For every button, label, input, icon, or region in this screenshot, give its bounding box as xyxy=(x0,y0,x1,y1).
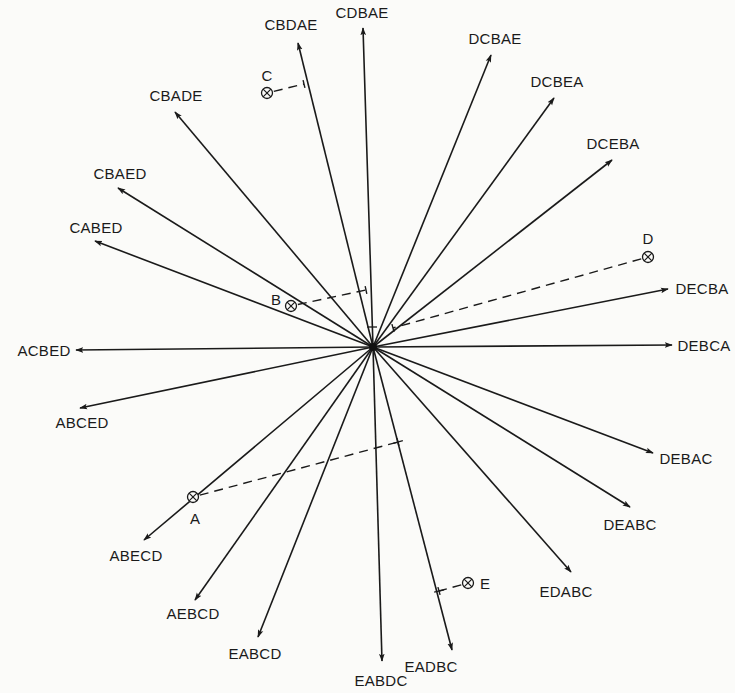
ray-arrow-acbed xyxy=(76,347,373,350)
ray-arrow-cabed xyxy=(95,241,373,347)
point-label: E xyxy=(480,575,490,592)
point-label: D xyxy=(643,230,654,247)
preference-ray-diagram: ABCDE CDBAECBDAEDCBAEDCBEADCEBACBADECBAE… xyxy=(0,0,735,693)
ray-arrow-debca xyxy=(373,345,672,347)
ray-arrow-eabdc xyxy=(373,347,382,661)
ray-arrow-deabc xyxy=(373,347,630,507)
point-marker-c xyxy=(262,88,273,99)
ray-arrow-dceba xyxy=(373,160,612,347)
ray-label: ABCED xyxy=(55,414,108,431)
point-label: B xyxy=(271,291,281,308)
ray-label: AEBCD xyxy=(166,605,219,622)
ray-label: ACBED xyxy=(17,342,70,359)
ray-arrow-decba xyxy=(373,289,668,347)
projection-foot-tick xyxy=(365,286,367,294)
ray-arrow-abced xyxy=(80,347,373,408)
ray-arrow-debac xyxy=(373,347,653,453)
ray-label: DECBA xyxy=(675,280,728,297)
ray-label: EADBC xyxy=(404,658,457,675)
ray-arrow-dcbea xyxy=(373,98,554,347)
ray-label: DEABC xyxy=(603,516,656,533)
projection-foot-tick xyxy=(303,80,305,88)
ray-label: CBADE xyxy=(149,87,202,104)
point-markers: ABCDE xyxy=(188,67,654,592)
ray-label: DCEBA xyxy=(586,135,639,152)
projection-line-c xyxy=(274,84,304,91)
ray-arrow-cdbae xyxy=(363,28,373,347)
point-marker-a xyxy=(188,492,199,503)
point-label: A xyxy=(190,510,200,527)
point-marker-d xyxy=(643,252,654,263)
ray-label: CBAED xyxy=(93,165,146,182)
diagram-canvas: ABCDE CDBAECBDAEDCBAEDCBEADCEBACBADECBAE… xyxy=(0,0,735,693)
ray-label: EABDC xyxy=(354,672,407,689)
point-label: C xyxy=(262,67,273,84)
ray-label: DEBAC xyxy=(659,450,712,467)
center-hub xyxy=(369,343,377,351)
ray-arrow-dcbae xyxy=(373,55,491,347)
ray-label: DEBCA xyxy=(677,337,730,354)
ray-arrow-cbaed xyxy=(118,188,373,347)
ray-label: EABCD xyxy=(228,645,281,662)
ray-label: EDABC xyxy=(539,583,592,600)
ray-label: CBDAE xyxy=(264,16,317,33)
ray-label: CABED xyxy=(69,219,122,236)
ray-label: DCBAE xyxy=(468,30,521,47)
point-marker-e xyxy=(463,578,474,589)
ray-arrow-eabcd xyxy=(258,347,373,637)
ray-label: ABECD xyxy=(109,547,162,564)
projection-line-b xyxy=(298,290,366,305)
ray-label: CDBAE xyxy=(335,4,388,21)
ray-label: DCBEA xyxy=(530,73,583,90)
point-marker-b xyxy=(286,301,297,312)
